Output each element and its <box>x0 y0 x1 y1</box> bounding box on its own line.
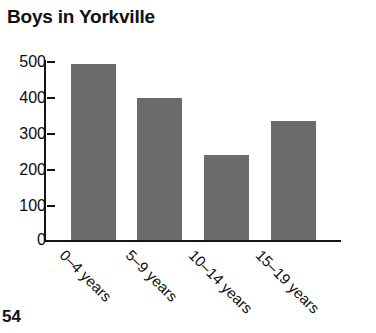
chart-page: Boys in Yorkville 500 400 300 200 100 0 … <box>0 0 376 333</box>
y-tick-mark <box>47 97 55 99</box>
bar-chart-plot-area: 500 400 300 200 100 0 0–4 years 5–9 year… <box>0 0 376 333</box>
y-axis-tick-label: 0 <box>2 232 46 248</box>
x-axis-line <box>44 240 341 242</box>
x-axis-tick-label: 15–19 years <box>253 247 322 316</box>
y-tick-mark <box>47 133 55 135</box>
y-tick-mark <box>47 169 55 171</box>
y-axis-tick-label: 200 <box>2 162 46 178</box>
x-axis-tick-label: 0–4 years <box>57 247 114 304</box>
y-tick-mark <box>47 205 55 207</box>
page-number: 54 <box>2 307 21 327</box>
bar-5-9-years[interactable] <box>137 98 182 240</box>
y-axis-line <box>44 60 46 242</box>
y-axis-tick-label: 100 <box>2 198 46 214</box>
bar-10-14-years[interactable] <box>204 155 249 240</box>
y-axis-tick-label: 400 <box>2 90 46 106</box>
y-axis-tick-label: 500 <box>2 54 46 70</box>
bar-15-19-years[interactable] <box>271 121 316 240</box>
x-axis-tick-label: 10–14 years <box>186 247 255 316</box>
x-axis-tick-label: 5–9 years <box>123 247 180 304</box>
bar-0-4-years[interactable] <box>71 64 116 240</box>
y-tick-mark <box>47 61 55 63</box>
y-axis-tick-label: 300 <box>2 126 46 142</box>
